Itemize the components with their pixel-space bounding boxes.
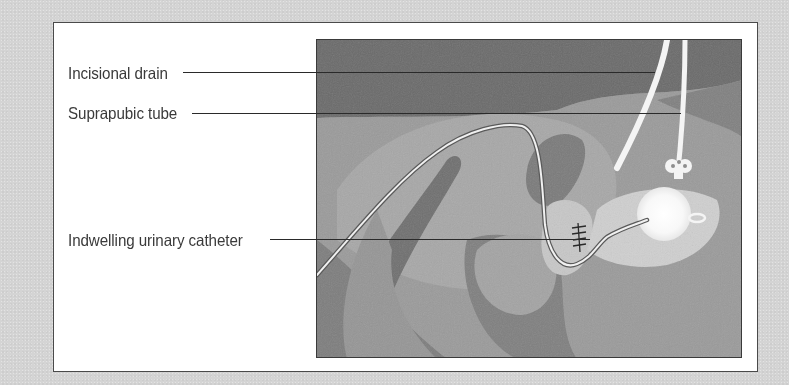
label-indwelling-urinary-catheter: Indwelling urinary catheter (68, 232, 243, 249)
pelvic-anatomy-illustration (317, 40, 742, 358)
anatomical-illustration (316, 39, 742, 358)
label-suprapubic-tube: Suprapubic tube (68, 105, 177, 122)
bladder-balloon (637, 187, 691, 241)
label-incisional-drain: Incisional drain (68, 65, 168, 82)
